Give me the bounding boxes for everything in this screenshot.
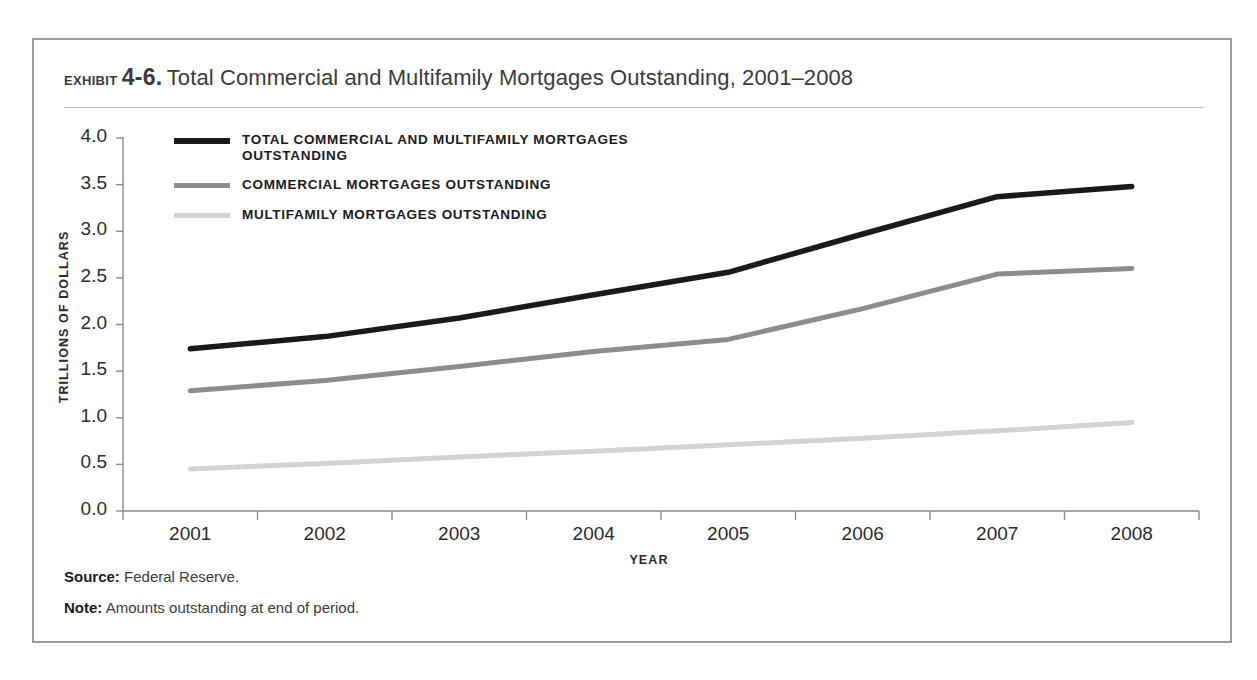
x-tick-label: 2008 <box>1087 523 1177 545</box>
chart-legend: TOTAL COMMERCIAL AND MULTIFAMILY MORTGAG… <box>174 132 694 236</box>
legend-item-label: TOTAL COMMERCIAL AND MULTIFAMILY MORTGAG… <box>230 132 694 163</box>
footnote-note-text: Amounts outstanding at end of period. <box>106 599 360 616</box>
y-tick-label: 0.5 <box>61 451 107 473</box>
footnote-source: Source: Federal Reserve. <box>64 568 1064 585</box>
y-tick-label: 1.5 <box>61 358 107 380</box>
chart-plot-area: TRILLIONS OF DOLLARS YEAR 0.00.51.01.52.… <box>34 40 1234 645</box>
x-tick-label: 2001 <box>145 523 235 545</box>
footnote-note-label: Note: <box>64 599 102 616</box>
legend-line-swatch-icon <box>174 183 230 188</box>
x-tick-label: 2002 <box>280 523 370 545</box>
x-tick-label: 2006 <box>818 523 908 545</box>
y-tick-label: 0.0 <box>61 498 107 520</box>
legend-item[interactable]: MULTIFAMILY MORTGAGES OUTSTANDING <box>174 207 694 223</box>
y-tick-label: 3.0 <box>61 218 107 240</box>
legend-line-swatch-icon <box>174 138 230 144</box>
legend-item[interactable]: TOTAL COMMERCIAL AND MULTIFAMILY MORTGAG… <box>174 132 694 163</box>
y-tick-label: 2.0 <box>61 312 107 334</box>
legend-line-swatch-icon <box>174 213 230 218</box>
y-tick-label: 2.5 <box>61 265 107 287</box>
x-tick-label: 2003 <box>414 523 504 545</box>
y-tick-label: 4.0 <box>61 125 107 147</box>
footnote-source-label: Source: <box>64 568 120 585</box>
footnote-source-text: Federal Reserve. <box>124 568 239 585</box>
legend-item[interactable]: COMMERCIAL MORTGAGES OUTSTANDING <box>174 177 694 193</box>
exhibit-frame: Exhibit 4-6. Total Commercial and Multif… <box>32 38 1232 643</box>
y-tick-label: 3.5 <box>61 172 107 194</box>
x-tick-label: 2004 <box>549 523 639 545</box>
x-tick-label: 2005 <box>683 523 773 545</box>
y-tick-label: 1.0 <box>61 405 107 427</box>
footnote-note: Note: Amounts outstanding at end of peri… <box>64 599 1064 616</box>
x-tick-label: 2007 <box>952 523 1042 545</box>
chart-footnotes: Source: Federal Reserve. Note: Amounts o… <box>64 568 1064 630</box>
legend-item-label: COMMERCIAL MORTGAGES OUTSTANDING <box>230 177 551 193</box>
x-axis-title: YEAR <box>589 553 709 567</box>
legend-item-label: MULTIFAMILY MORTGAGES OUTSTANDING <box>230 207 547 223</box>
